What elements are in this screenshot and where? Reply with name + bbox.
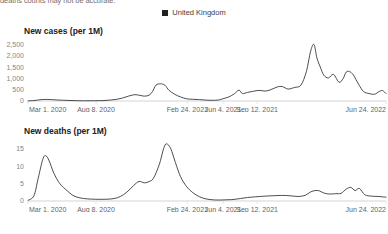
square-marker-icon [162,10,168,16]
y-axis-tick-label: 1,500 [6,64,24,71]
y-axis-tick-label: 0 [20,197,24,204]
y-axis-tick-label: 5 [20,180,24,187]
x-axis-tick-label: Sep 12, 2021 [236,106,278,113]
page-title-new-deaths: New deaths (per 1M) [24,126,107,136]
x-axis-tick-label: Sep 12, 2021 [236,206,278,213]
x-axis-tick-label: Jun 24, 2022 [346,106,387,113]
chart-svg-new-cases: 05001,0001,5002,0002,500Mar 1, 2020Aug 8… [0,36,388,112]
chart-svg-new-deaths: 051015Mar 1, 2020Aug 8, 2020Feb 24, 2021… [0,136,388,212]
x-axis-tick-label: Aug 8, 2020 [77,206,115,213]
series-line-united-kingdom [28,44,386,101]
plot-new-cases[interactable]: 05001,0001,5002,0002,500Mar 1, 2020Aug 8… [0,36,388,112]
y-axis-tick-label: 2,000 [6,52,24,59]
y-axis-tick-label: 15 [16,145,24,152]
y-axis-tick-label: 10 [16,163,24,170]
disclaimer-note: deaths counts may not be accurate. [0,0,115,5]
x-axis-tick-label: Mar 1, 2020 [29,106,66,113]
x-axis-tick-label: Aug 8, 2020 [77,106,115,113]
y-axis-tick-label: 500 [12,86,24,93]
y-axis-tick-label: 1,000 [6,75,24,82]
legend-item-label: United Kingdom [172,9,225,17]
x-axis-tick-label: Feb 24, 2021 [167,106,208,113]
y-axis-tick-label: 2,500 [6,41,24,48]
series-line-united-kingdom [28,144,386,200]
x-axis-tick-label: Mar 1, 2020 [29,206,66,213]
plot-new-deaths[interactable]: 051015Mar 1, 2020Aug 8, 2020Feb 24, 2021… [0,136,388,212]
y-axis-tick-label: 0 [20,97,24,104]
x-axis-tick-label: Feb 24, 2021 [167,206,208,213]
chart-legend: United Kingdom [0,9,388,17]
page-title-new-cases: New cases (per 1M) [24,26,103,36]
x-axis-tick-label: Jun 24, 2022 [346,206,387,213]
